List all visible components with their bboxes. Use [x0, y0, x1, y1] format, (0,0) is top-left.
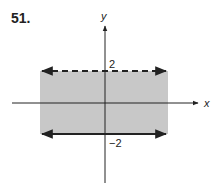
x-axis-label: x: [203, 97, 210, 109]
graph: y x 2 −2: [0, 0, 221, 189]
y-axis-label: y: [100, 10, 108, 22]
tick-label-neg2: −2: [109, 137, 122, 149]
tick-label-2: 2: [109, 58, 115, 70]
